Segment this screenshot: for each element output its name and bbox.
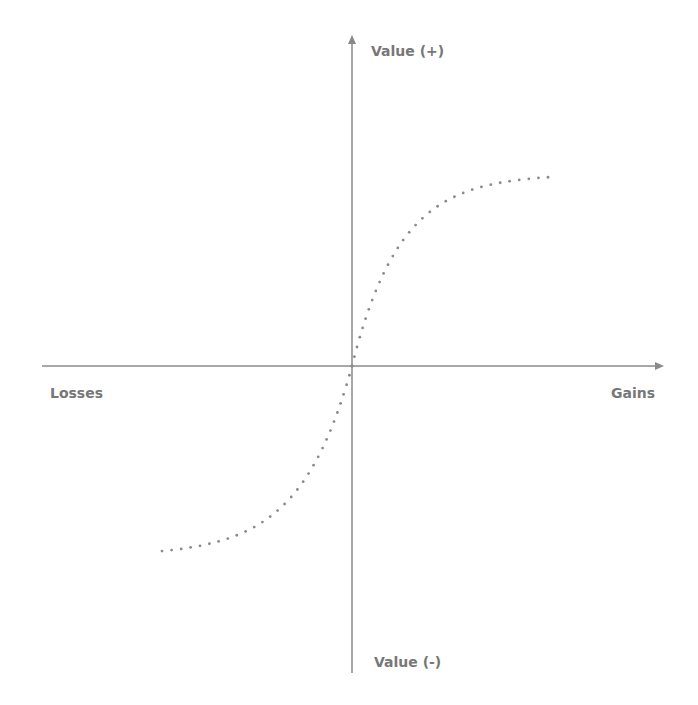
curve-dot — [361, 327, 364, 330]
curve-dot — [428, 211, 431, 214]
curve-dot — [235, 534, 238, 537]
curve-dot — [367, 308, 370, 311]
value-function-diagram — [0, 0, 698, 705]
curve-dot — [189, 546, 192, 549]
curve-dot — [518, 178, 521, 181]
curve-dot — [290, 496, 293, 499]
curve-dot — [307, 472, 310, 475]
curve-dot — [414, 224, 417, 227]
value-curve — [161, 176, 550, 553]
curve-dot — [253, 526, 256, 529]
curve-dot — [339, 402, 342, 405]
curve-dot — [312, 464, 315, 467]
curve-dot — [208, 542, 211, 545]
curve-dot — [296, 488, 299, 491]
curve-dot — [283, 503, 286, 506]
curve-dot — [453, 195, 456, 198]
y-negative-label: Value (-) — [374, 654, 441, 670]
curve-dot — [396, 247, 399, 250]
curve-dot — [321, 447, 324, 450]
curve-dot — [333, 420, 336, 423]
curve-dot — [170, 549, 173, 552]
y-axis — [348, 35, 356, 673]
curve-dot — [325, 438, 328, 441]
curve-dot — [269, 515, 272, 518]
curve-dot — [462, 192, 465, 195]
curve-dot — [391, 255, 394, 258]
curve-dot — [345, 383, 348, 386]
curve-dot — [421, 217, 424, 220]
curve-dot — [374, 290, 377, 293]
curve-dot — [244, 530, 247, 533]
curve-dot — [382, 272, 385, 275]
curve-dot — [356, 346, 359, 349]
curve-dot — [471, 188, 474, 191]
curve-dot — [364, 317, 367, 320]
curve-dot — [527, 177, 530, 180]
curve-dot — [353, 355, 356, 358]
curve-dot — [342, 393, 345, 396]
x-axis-arrow-icon — [655, 362, 664, 370]
curve-dot — [351, 365, 354, 368]
curve-dot — [547, 176, 550, 179]
curve-dot — [317, 455, 320, 458]
curve-dot — [508, 180, 511, 183]
x-positive-label: Gains — [611, 385, 655, 401]
curve-dot — [537, 177, 540, 180]
curve-dot — [161, 550, 164, 553]
curve-dot — [329, 429, 332, 432]
y-axis-arrow-icon — [348, 35, 356, 44]
curve-dot — [348, 374, 351, 377]
curve-dot — [408, 231, 411, 234]
curve-dot — [436, 205, 439, 208]
curve-dot — [489, 183, 492, 186]
curve-dot — [499, 181, 502, 184]
curve-dot — [336, 411, 339, 414]
curve-dot — [371, 299, 374, 302]
curve-dot — [358, 336, 361, 339]
curve-dot — [480, 186, 483, 189]
curve-dot — [180, 547, 183, 550]
curve-dot — [444, 200, 447, 203]
curve-dot — [302, 480, 305, 483]
curve-dot — [226, 537, 229, 540]
curve-dot — [261, 521, 264, 524]
curve-dot — [276, 509, 279, 512]
curve-dot — [378, 281, 381, 284]
curve-dot — [217, 540, 220, 543]
curve-dot — [402, 239, 405, 242]
x-negative-label: Losses — [50, 385, 103, 401]
curve-dot — [387, 263, 390, 266]
curve-dot — [199, 544, 202, 547]
y-positive-label: Value (+) — [371, 43, 444, 59]
